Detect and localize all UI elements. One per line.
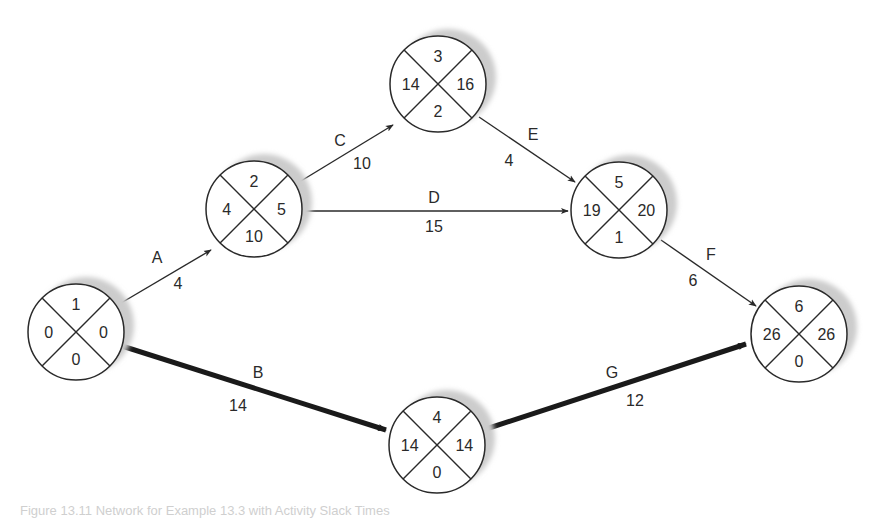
critical-path-arrow xyxy=(122,346,386,430)
event-node-5: 519201 xyxy=(571,162,667,258)
slack-time: 1 xyxy=(615,229,624,246)
activity-edge-e: E4 xyxy=(479,117,575,182)
earliest-time: 0 xyxy=(44,324,53,341)
slack-time: 0 xyxy=(72,351,81,368)
event-node-3: 314162 xyxy=(390,36,486,132)
activity-arrow xyxy=(116,250,211,306)
slack-time: 0 xyxy=(795,353,804,370)
activity-edge-d: D15 xyxy=(302,189,568,235)
network-diagram: A4B14C10D15E4F6G12 100024510314162519201… xyxy=(0,0,880,522)
activity-duration: 4 xyxy=(505,152,514,169)
activity-duration: 6 xyxy=(689,272,698,289)
event-number: 5 xyxy=(615,174,624,191)
earliest-time: 19 xyxy=(583,202,601,219)
edges-layer: A4B14C10D15E4F6G12 xyxy=(116,117,756,430)
event-node-1: 1000 xyxy=(28,284,124,380)
activity-edge-b: B14 xyxy=(122,346,386,430)
activity-duration: 4 xyxy=(174,275,183,292)
activity-label: C xyxy=(334,132,346,149)
event-node-2: 24510 xyxy=(206,161,302,257)
earliest-time: 14 xyxy=(401,437,419,454)
latest-time: 0 xyxy=(99,324,108,341)
slack-time: 0 xyxy=(433,464,442,481)
activity-duration: 12 xyxy=(626,392,644,409)
critical-path-arrow xyxy=(483,344,746,430)
activity-label: A xyxy=(152,249,163,266)
slack-time: 10 xyxy=(245,228,263,245)
activity-duration: 15 xyxy=(425,218,443,235)
activity-duration: 10 xyxy=(353,155,371,172)
figure-caption: Figure 13.11 Network for Example 13.3 wi… xyxy=(20,503,390,518)
activity-edge-a: A4 xyxy=(116,249,211,307)
latest-time: 5 xyxy=(277,201,286,218)
event-number: 6 xyxy=(795,298,804,315)
activity-edge-c: C10 xyxy=(296,125,393,184)
latest-time: 16 xyxy=(456,76,474,93)
activity-label: F xyxy=(706,246,716,263)
earliest-time: 4 xyxy=(222,201,231,218)
event-number: 1 xyxy=(72,296,81,313)
activity-edge-g: G12 xyxy=(483,344,746,430)
activity-label: D xyxy=(428,189,440,206)
latest-time: 20 xyxy=(637,202,655,219)
activity-duration: 14 xyxy=(229,397,247,414)
event-number: 4 xyxy=(433,409,442,426)
event-node-4: 414140 xyxy=(389,397,485,493)
earliest-time: 14 xyxy=(402,76,420,93)
activity-label: B xyxy=(253,364,264,381)
earliest-time: 26 xyxy=(763,326,781,343)
activity-label: E xyxy=(528,126,539,143)
slack-time: 2 xyxy=(434,103,443,120)
event-node-6: 626260 xyxy=(751,286,847,382)
activity-label: G xyxy=(606,364,618,381)
activity-edge-f: F6 xyxy=(661,240,756,306)
latest-time: 26 xyxy=(817,326,835,343)
event-number: 2 xyxy=(250,173,259,190)
event-number: 3 xyxy=(434,48,443,65)
latest-time: 14 xyxy=(455,437,473,454)
